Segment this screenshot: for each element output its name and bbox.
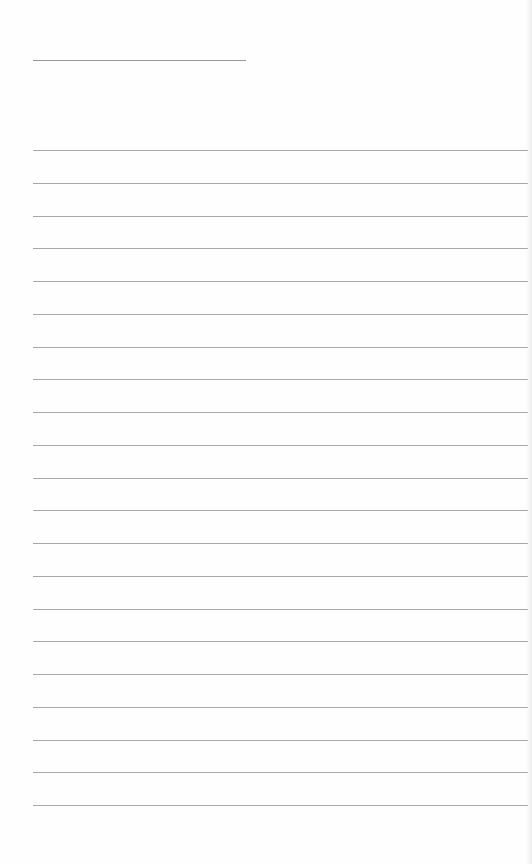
ruled-line xyxy=(33,641,528,642)
ruled-line xyxy=(33,445,528,446)
ruled-line xyxy=(33,478,528,479)
lined-paper-page xyxy=(0,0,532,864)
ruled-line xyxy=(33,707,528,708)
ruled-line xyxy=(33,740,528,741)
ruled-line xyxy=(33,183,528,184)
ruled-line xyxy=(33,772,528,773)
ruled-line xyxy=(33,510,528,511)
ruled-line xyxy=(33,674,528,675)
ruled-line xyxy=(33,281,528,282)
ruled-line xyxy=(33,412,528,413)
ruled-line xyxy=(33,805,528,806)
ruled-line xyxy=(33,379,528,380)
page-edge-shadow xyxy=(526,0,532,864)
ruled-line xyxy=(33,314,528,315)
ruled-line xyxy=(33,347,528,348)
ruled-line xyxy=(33,543,528,544)
ruled-line xyxy=(33,248,528,249)
ruled-line xyxy=(33,609,528,610)
ruled-line xyxy=(33,576,528,577)
ruled-line xyxy=(33,150,528,151)
title-underline xyxy=(33,60,246,61)
title-field xyxy=(33,40,246,60)
ruled-line xyxy=(33,216,528,217)
